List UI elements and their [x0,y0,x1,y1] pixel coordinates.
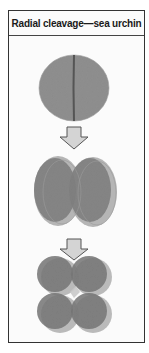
blastomere-bottom-right [71,293,107,329]
cleavage-diagram [0,0,149,353]
cleavage-furrow [74,55,75,121]
stage-two-cell [34,156,117,227]
down-arrow-icon [60,127,88,149]
stage-one-cell [39,55,109,121]
stage-four-cell [37,256,112,333]
blastomere-bottom-left [37,293,73,329]
blastomere-top-left [37,256,73,292]
blastomere-right [69,158,111,222]
